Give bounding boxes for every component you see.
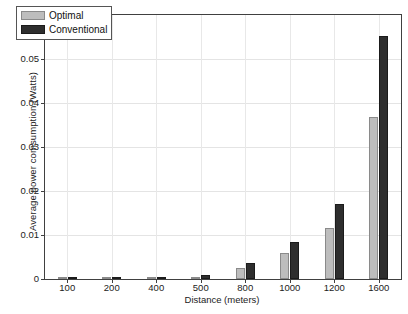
- y-tick-label: 0.02: [21, 186, 40, 196]
- x-tick-label: 100: [59, 283, 75, 293]
- x-tick-label: 200: [104, 283, 120, 293]
- y-tick-mark: [41, 191, 45, 192]
- x-tick-label: 1000: [279, 283, 300, 293]
- bar-optimal-800: [236, 268, 245, 279]
- y-tick-label: 0.03: [21, 142, 40, 152]
- y-tick-label: 0: [34, 274, 39, 284]
- bar-optimal-1600: [369, 117, 378, 279]
- gridline: [112, 15, 113, 279]
- gridline: [45, 235, 401, 236]
- legend-swatch-conventional-icon: [21, 25, 45, 34]
- legend-label-conventional: Conventional: [49, 24, 107, 35]
- gridline: [45, 147, 401, 148]
- bar-optimal-100: [58, 277, 67, 279]
- x-tick-label: 400: [148, 283, 164, 293]
- x-axis-title: Distance (meters): [44, 294, 400, 305]
- chart-legend: Optimal Conventional: [16, 6, 112, 40]
- plot-area: 00.010.020.030.040.050.06 10020040050080…: [44, 14, 402, 280]
- gridline: [201, 15, 202, 279]
- gridline: [67, 15, 68, 279]
- legend-label-optimal: Optimal: [49, 10, 83, 21]
- bar-conventional-1200: [335, 204, 344, 279]
- chart-figure: Average power comsumption (Watts) Distan…: [0, 0, 408, 314]
- bar-optimal-200: [102, 277, 111, 279]
- gridline: [245, 15, 246, 279]
- bar-conventional-800: [246, 263, 255, 279]
- bar-optimal-1000: [280, 253, 289, 279]
- bar-conventional-1600: [379, 36, 388, 279]
- y-tick-mark: [41, 279, 45, 280]
- y-tick-label: 0.01: [21, 230, 40, 240]
- x-tick-label: 1200: [324, 283, 345, 293]
- bar-conventional-100: [68, 277, 77, 279]
- y-tick-mark: [41, 235, 45, 236]
- x-tick-label: 800: [237, 283, 253, 293]
- y-tick-label: 0.04: [21, 98, 40, 108]
- bar-optimal-1200: [325, 228, 334, 279]
- y-tick-mark: [41, 103, 45, 104]
- gridline: [156, 15, 157, 279]
- bar-conventional-1000: [290, 242, 299, 279]
- y-tick-mark: [41, 147, 45, 148]
- legend-item-conventional[interactable]: Conventional: [21, 23, 107, 36]
- bar-conventional-200: [112, 277, 121, 279]
- gridline: [45, 103, 401, 104]
- gridline: [45, 191, 401, 192]
- legend-item-optimal[interactable]: Optimal: [21, 9, 107, 22]
- y-tick-label: 0.05: [21, 54, 40, 64]
- bar-conventional-400: [157, 277, 166, 279]
- x-tick-label: 1600: [368, 283, 389, 293]
- legend-swatch-optimal-icon: [21, 11, 45, 20]
- bar-optimal-500: [191, 277, 200, 279]
- gridline: [290, 15, 291, 279]
- bar-conventional-500: [201, 275, 210, 279]
- x-tick-label: 500: [193, 283, 209, 293]
- gridline: [45, 59, 401, 60]
- y-tick-mark: [41, 59, 45, 60]
- bar-optimal-400: [147, 277, 156, 279]
